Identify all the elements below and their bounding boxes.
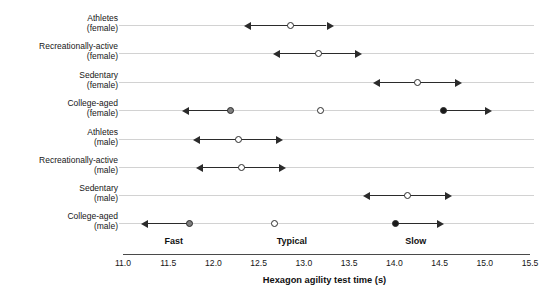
range-segment: [395, 223, 437, 225]
zone-label: Fast: [165, 236, 184, 246]
category-label-line2: (female): [0, 109, 118, 119]
x-tick-label: 14.0: [386, 258, 403, 268]
data-point-marker: [440, 107, 447, 114]
data-point-marker: [414, 79, 421, 86]
data-point-marker: [271, 220, 278, 227]
data-point-marker: [315, 50, 322, 57]
data-point-marker: [317, 107, 324, 114]
data-point-marker: [235, 136, 242, 143]
x-axis-title-text: Hexagon agility test time (s): [163, 275, 386, 285]
hexagon-agility-chart: Athletes(female)Recreationally-active(fe…: [0, 0, 549, 306]
arrow-left-icon: [182, 107, 189, 115]
category-label: Recreationally-active(female): [0, 42, 118, 61]
x-tick-label: 13.5: [341, 258, 358, 268]
x-tick-label: 11.5: [160, 258, 176, 268]
row-baseline: [119, 139, 534, 140]
arrow-right-icon: [485, 107, 492, 115]
category-label-line2: (female): [0, 81, 118, 91]
data-point-marker: [287, 22, 294, 29]
arrow-left-icon: [373, 79, 380, 87]
x-axis-title: Hexagon agility test time (s): [0, 275, 549, 285]
x-tick-label: 15.5: [522, 258, 539, 268]
arrow-right-icon: [445, 192, 452, 200]
zone-label: Slow: [405, 236, 426, 246]
data-point-marker: [238, 164, 245, 171]
x-tick-label: 11.0: [115, 258, 131, 268]
category-label-line2: (female): [0, 24, 118, 34]
x-tick-label: 12.5: [250, 258, 267, 268]
arrow-left-icon: [363, 192, 370, 200]
category-label: Sedentary(male): [0, 184, 118, 203]
data-point-marker: [186, 220, 193, 227]
x-axis-line: [123, 254, 530, 255]
category-label: Sedentary(female): [0, 71, 118, 90]
arrow-left-icon: [196, 164, 203, 172]
category-label-line2: (male): [0, 138, 118, 148]
x-tick-label: 15.0: [476, 258, 493, 268]
category-label-line2: (male): [0, 166, 118, 176]
range-segment: [443, 110, 485, 112]
arrow-left-icon: [141, 220, 148, 228]
row-baseline: [119, 167, 534, 168]
arrow-right-icon: [437, 220, 444, 228]
category-label-line2: (male): [0, 222, 118, 232]
x-tick-label: 12.0: [205, 258, 222, 268]
data-point-marker: [392, 220, 399, 227]
arrow-right-icon: [276, 136, 283, 144]
arrow-right-icon: [327, 22, 334, 30]
category-label: College-aged(male): [0, 212, 118, 231]
x-tick-label: 13.0: [296, 258, 313, 268]
category-label-line2: (male): [0, 194, 118, 204]
range-segment: [148, 223, 190, 225]
category-label: Recreationally-active(male): [0, 156, 118, 175]
range-segment: [189, 110, 231, 112]
category-label: Athletes(male): [0, 128, 118, 147]
data-point-marker: [404, 192, 411, 199]
arrow-right-icon: [355, 50, 362, 58]
x-tick-label: 14.5: [431, 258, 448, 268]
arrow-left-icon: [273, 50, 280, 58]
row-baseline: [119, 195, 534, 196]
arrow-right-icon: [455, 79, 462, 87]
category-label: Athletes(female): [0, 14, 118, 33]
category-label: College-aged(female): [0, 99, 118, 118]
plot-area: [123, 0, 530, 306]
row-baseline: [119, 82, 534, 83]
arrow-left-icon: [244, 22, 251, 30]
category-label-line2: (female): [0, 52, 118, 62]
arrow-right-icon: [279, 164, 286, 172]
zone-label: Typical: [277, 236, 307, 246]
arrow-left-icon: [193, 136, 200, 144]
data-point-marker: [227, 107, 234, 114]
